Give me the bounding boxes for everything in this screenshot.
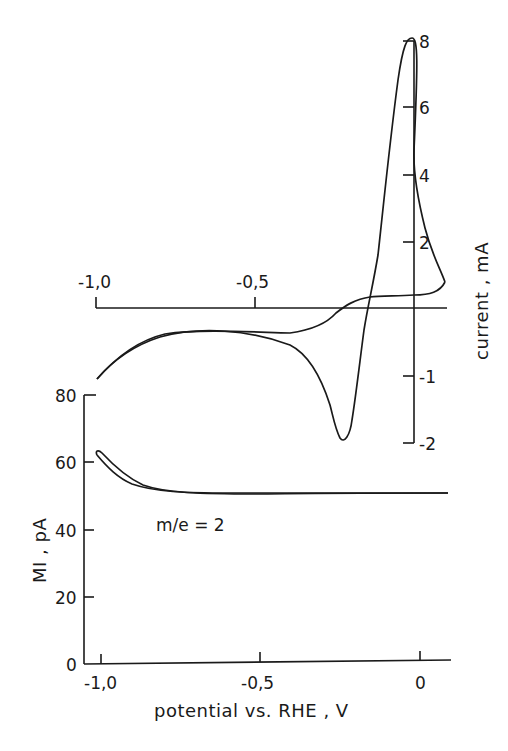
bottom-x-tick-label: 0 bbox=[415, 673, 426, 693]
top-x-tick-label: -1,0 bbox=[78, 272, 111, 292]
bottom-y-tick-label: 40 bbox=[55, 521, 77, 541]
bottom-x-axis bbox=[84, 660, 451, 664]
mi-curve-return bbox=[96, 451, 448, 494]
top-y-tick-label: -1 bbox=[419, 367, 436, 387]
top-y-axis-title: current , mA bbox=[471, 242, 492, 360]
bottom-y-tick-label: 0 bbox=[66, 655, 77, 675]
bottom-panel: 80 60 40 20 0 -1,0 -0,5 0 MI , pA potent… bbox=[29, 386, 451, 721]
bottom-y-axis-title: MI , pA bbox=[29, 518, 50, 583]
top-y-tick-label: 4 bbox=[419, 166, 430, 186]
mass-annotation: m/e = 2 bbox=[156, 515, 225, 535]
figure: -1,0 -0,5 8 6 4 2 -1 -2 current , mA 80 … bbox=[0, 0, 508, 751]
top-x-tick-label: -0,5 bbox=[236, 272, 269, 292]
top-y-tick-label: -2 bbox=[419, 434, 436, 454]
bottom-x-tick-label: -1,0 bbox=[84, 673, 117, 693]
top-panel: -1,0 -0,5 8 6 4 2 -1 -2 current , mA bbox=[78, 32, 492, 454]
top-y-tick-label: 2 bbox=[419, 233, 430, 253]
bottom-y-tick-label: 20 bbox=[55, 588, 77, 608]
top-y-tick-label: 6 bbox=[419, 98, 430, 118]
bottom-x-tick-label: -0,5 bbox=[241, 673, 274, 693]
x-axis-title: potential vs. RHE , V bbox=[154, 700, 349, 721]
bottom-y-tick-label: 60 bbox=[55, 453, 77, 473]
bottom-y-tick-label: 80 bbox=[55, 386, 77, 406]
top-y-tick-label: 8 bbox=[419, 32, 430, 52]
cv-curve-cathodic bbox=[97, 282, 445, 379]
cv-curve-anodic bbox=[97, 38, 445, 440]
